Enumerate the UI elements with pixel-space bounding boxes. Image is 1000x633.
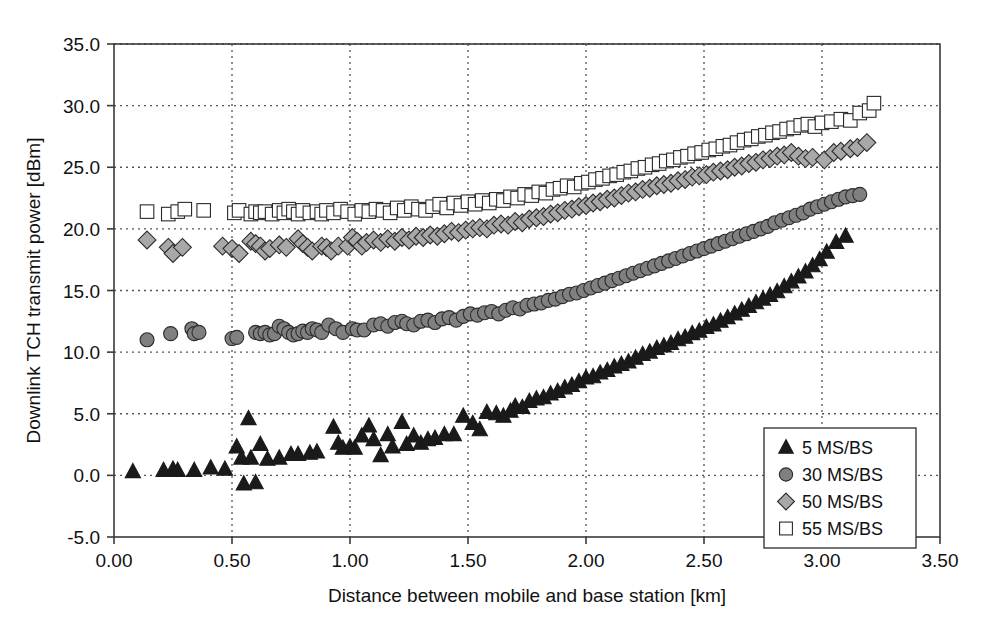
y-tick-label: 30.0 (63, 96, 100, 117)
x-tick-label: 2.00 (568, 550, 605, 571)
data-point-square (197, 204, 211, 218)
data-point-square (867, 96, 881, 110)
data-point-triangle (272, 450, 287, 464)
x-tick-label: 1.00 (332, 550, 369, 571)
legend-marker-circle (779, 468, 792, 481)
y-tick-label: 25.0 (63, 157, 100, 178)
chart-figure: 0.000.501.001.502.002.503.003.50 -5.00.0… (0, 0, 1000, 633)
data-point-triangle (366, 431, 381, 445)
y-tick-label: 35.0 (63, 34, 100, 55)
data-point-square (178, 202, 192, 216)
data-point-triangle (241, 410, 256, 424)
data-point-triangle (394, 414, 409, 428)
legend-label: 50 MS/BS (802, 492, 883, 512)
data-point-circle (192, 325, 206, 339)
y-tick-label: 20.0 (63, 219, 100, 240)
data-point-triangle (326, 419, 341, 433)
data-point-triangle (203, 460, 218, 474)
data-point-triangle (838, 228, 853, 242)
x-tick-label: 1.50 (450, 550, 487, 571)
x-tick-label: 3.00 (804, 550, 841, 571)
y-tick-label: -5.0 (67, 527, 100, 548)
data-point-triangle (125, 463, 140, 477)
y-tick-label: 0.0 (74, 465, 100, 486)
data-point-triangle (253, 436, 268, 450)
data-point-triangle (217, 461, 232, 475)
y-tick-label: 10.0 (63, 342, 100, 363)
data-point-triangle (248, 474, 263, 488)
x-axis-title: Distance between mobile and base station… (328, 585, 726, 606)
data-point-circle (140, 333, 154, 347)
y-axis-tick-labels: -5.00.05.010.015.020.025.030.035.0 (63, 34, 100, 548)
legend-label: 5 MS/BS (802, 438, 873, 458)
y-axis-title: Downlink TCH transmit power [dBm] (23, 138, 44, 444)
y-tick-label: 15.0 (63, 281, 100, 302)
data-point-triangle (373, 447, 388, 461)
data-point-circle (853, 187, 867, 201)
data-point-circle (230, 330, 244, 344)
x-axis-tick-labels: 0.000.501.001.502.002.503.003.50 (96, 550, 959, 571)
x-tick-label: 0.00 (96, 550, 133, 571)
data-point-square (140, 205, 154, 219)
legend-label: 30 MS/BS (802, 465, 883, 485)
data-point-circle (164, 327, 178, 341)
scatter-plot-svg: 0.000.501.001.502.002.503.003.50 -5.00.0… (0, 0, 1000, 633)
y-tick-label: 5.0 (74, 404, 100, 425)
x-tick-label: 0.50 (214, 550, 251, 571)
x-tick-label: 2.50 (686, 550, 723, 571)
series-5-ms-bs (125, 228, 853, 490)
legend-marker-square (780, 522, 793, 535)
data-point-triangle (187, 462, 202, 476)
chart-legend: 5 MS/BS30 MS/BS50 MS/BS55 MS/BS (764, 428, 916, 548)
legend-label: 55 MS/BS (802, 519, 883, 539)
x-tick-label: 3.50 (922, 550, 959, 571)
data-point-triangle (361, 418, 376, 432)
data-point-triangle (380, 426, 395, 440)
data-point-diamond (138, 231, 156, 249)
